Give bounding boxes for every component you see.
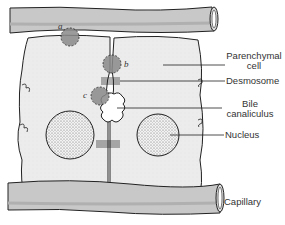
marker-b — [103, 55, 121, 73]
label-nucleus: Nucleus — [225, 130, 259, 140]
marker-c — [91, 87, 109, 105]
marker-a — [61, 28, 79, 46]
label-capillary: Capillary — [224, 197, 261, 207]
marker-label-a: a — [58, 21, 63, 31]
marker-label-b: b — [124, 59, 129, 69]
label-desmosome: Desmosome — [226, 76, 279, 86]
capillary-top — [10, 7, 218, 33]
nucleus-left — [46, 111, 94, 159]
marker-label-c: c — [83, 90, 87, 100]
label-bile-canaliculus: Bile canaliculus — [222, 99, 278, 119]
label-parenchymal-cell: Parenchymal cell — [226, 51, 282, 71]
